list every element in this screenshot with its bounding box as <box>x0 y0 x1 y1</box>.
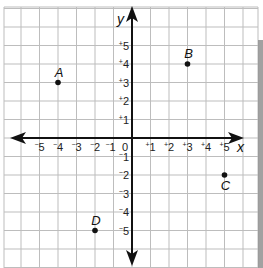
coordinate-plane: −5−4−3−2−10+1+2+3+4+5+5+4+3+2+1−1−2−3−4−… <box>0 0 263 268</box>
point-label: B <box>184 46 193 61</box>
point-label: D <box>91 213 100 228</box>
point-dot-icon <box>185 61 191 67</box>
point-label: C <box>221 178 231 193</box>
x-axis-label: x <box>236 139 245 155</box>
point-dot-icon <box>222 172 228 178</box>
y-axis-label: y <box>116 11 125 27</box>
right-border-strip <box>258 40 263 268</box>
point-dot-icon <box>55 80 61 86</box>
point-dot-icon <box>92 228 98 234</box>
point-label: A <box>54 65 64 80</box>
